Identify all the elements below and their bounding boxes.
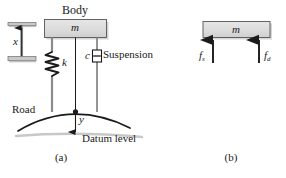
spring-constant-label: k (62, 57, 67, 68)
spring-force-subscript: s (202, 55, 205, 63)
mass-label-a: m (71, 22, 79, 33)
suspension-label: Suspension (103, 49, 153, 60)
spring-force-label: fs (199, 50, 205, 61)
damper-force-label: fd (264, 50, 271, 61)
datum-level-label: Datum level (82, 133, 136, 144)
suspension-model-figure: Body m x k c Suspension Road y Datum lev… (0, 0, 286, 178)
damper-assembly-a (93, 38, 102, 113)
spring-assembly-a (46, 38, 59, 113)
x-displacement-label: x (13, 36, 18, 47)
panel-b-caption: (b) (225, 152, 238, 163)
body-label: Body (62, 4, 88, 16)
damper-force-subscript: d (267, 55, 271, 63)
panel-a-caption: (a) (55, 152, 67, 163)
mass-label-b: m (232, 24, 240, 35)
damping-coefficient-label: c (85, 50, 90, 61)
road-label: Road (12, 104, 35, 115)
y-displacement-label: y (79, 114, 84, 125)
figure-vector-canvas (0, 0, 286, 178)
